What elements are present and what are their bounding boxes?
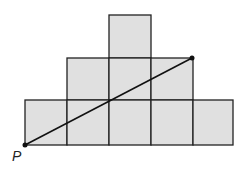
square	[151, 100, 193, 145]
square-grid	[25, 15, 233, 145]
square	[151, 58, 193, 100]
square	[25, 100, 67, 145]
staircase-diagram	[0, 0, 245, 169]
square	[109, 15, 151, 58]
square	[109, 58, 151, 100]
square	[109, 100, 151, 145]
square	[193, 100, 233, 145]
square	[67, 58, 109, 100]
square	[67, 100, 109, 145]
point-p	[23, 143, 28, 148]
endpoint	[190, 56, 195, 61]
point-p-label: P	[12, 148, 21, 164]
